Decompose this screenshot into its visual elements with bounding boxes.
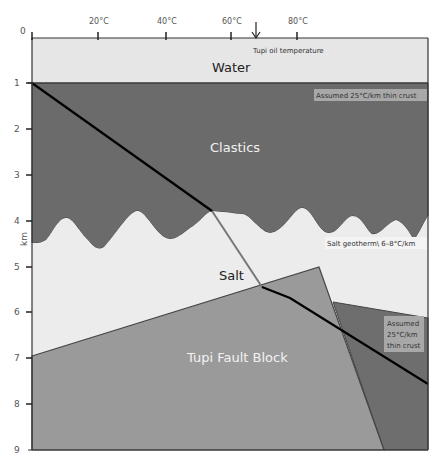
salt-geotherm-note: Salt geotherm\ 6–8°C/km (327, 240, 416, 248)
clastics-label: Clastics (210, 140, 260, 155)
depth-label-7: 7 (14, 353, 20, 363)
thin-crust-note-right-line1: Assumed (387, 320, 419, 328)
fault-block-label: Tupi Fault Block (186, 350, 288, 365)
geotherm-cross-section-diagram: 0 20°C 40°C 60°C 80°C Tupi oil temperatu… (0, 0, 439, 458)
tick-label-80c: 80°C (288, 17, 308, 26)
salt-label: Salt (219, 268, 244, 283)
depth-unit-label: km (19, 232, 29, 246)
depth-label-5: 5 (14, 262, 20, 272)
water-label: Water (212, 60, 251, 75)
depth-label-9: 9 (14, 445, 20, 455)
thin-crust-note-top: Assumed 25°C/km thin crust (316, 92, 417, 100)
depth-label-3: 3 (14, 170, 20, 180)
depth-label-4: 4 (14, 216, 20, 226)
tick-label-40c: 40°C (157, 17, 177, 26)
tick-label-60c: 60°C (222, 17, 242, 26)
depth-label-1: 1 (14, 78, 20, 88)
tupi-oil-temperature-label: Tupi oil temperature (252, 47, 324, 55)
tupi-oil-temperature-arrow-icon (252, 22, 260, 38)
depth-label-6: 6 (14, 307, 20, 317)
thin-crust-note-right-line2: 25°C/km (387, 331, 418, 339)
tick-label-20c: 20°C (89, 17, 109, 26)
thin-crust-note-right-line3: thin crust (387, 342, 421, 350)
depth-label-2: 2 (14, 124, 20, 134)
origin-label: 0 (20, 26, 26, 36)
depth-label-8: 8 (14, 399, 20, 409)
